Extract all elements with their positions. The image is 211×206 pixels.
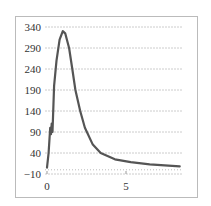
- y-tick-label: 290: [25, 42, 42, 54]
- y-tick-label: 140: [25, 105, 42, 117]
- y-tick-label: 40: [30, 147, 42, 159]
- x-tick-label: 5: [123, 180, 129, 192]
- y-tick-label: −10: [24, 168, 42, 180]
- y-tick-label: 90: [30, 126, 42, 138]
- y-tick-label: 340: [25, 21, 42, 33]
- line-chart: 3402902401901409040−10 05: [0, 0, 211, 206]
- x-tick-label: 0: [44, 180, 50, 192]
- y-tick-label: 240: [25, 63, 42, 75]
- y-tick-label: 190: [25, 84, 42, 96]
- chart-border: [16, 17, 198, 198]
